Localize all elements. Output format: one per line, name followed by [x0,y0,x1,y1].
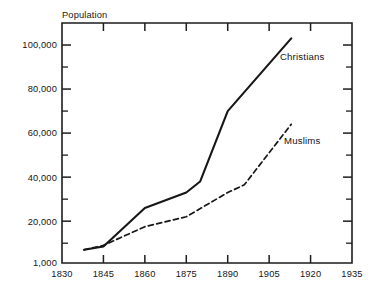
y-tick-label: 60,000 [28,128,57,138]
y-tick-label: 1,000 [33,258,57,268]
x-axis-tick-labels: 18301845186018751890190519201935 [51,269,362,279]
y-axis-title-text: Population [62,10,107,20]
series-label-muslims: Muslims [284,135,321,146]
x-tick-label: 1935 [341,269,362,279]
series-line-muslims [84,124,291,250]
data-series-lines [84,38,291,249]
series-line-christians [84,38,291,249]
y-tick-label: 80,000 [28,84,57,94]
y-tick-label: 20,000 [28,217,57,227]
y-tick-label: 100,000 [22,40,57,50]
x-tick-label: 1845 [93,269,114,279]
y-axis-tick-labels: 1,00020,00040,00060,00080,000100,000 [22,40,57,268]
x-tick-label: 1905 [258,269,279,279]
y-axis-title: Population [62,10,107,20]
chart-figure: Population 1,00020,00040,00060,00080,000… [0,0,378,297]
series-label-christians: Christians [280,51,325,62]
x-tick-label: 1890 [217,269,238,279]
x-tick-label: 1830 [51,269,72,279]
population-line-chart: Population 1,00020,00040,00060,00080,000… [0,0,378,297]
data-series-labels: ChristiansMuslims [280,51,325,146]
x-tick-label: 1920 [300,269,321,279]
y-axis-minor-ticks [62,67,352,243]
y-axis-major-ticks [62,45,352,221]
y-tick-label: 40,000 [28,173,57,183]
x-tick-label: 1875 [176,269,197,279]
x-tick-label: 1860 [134,269,155,279]
